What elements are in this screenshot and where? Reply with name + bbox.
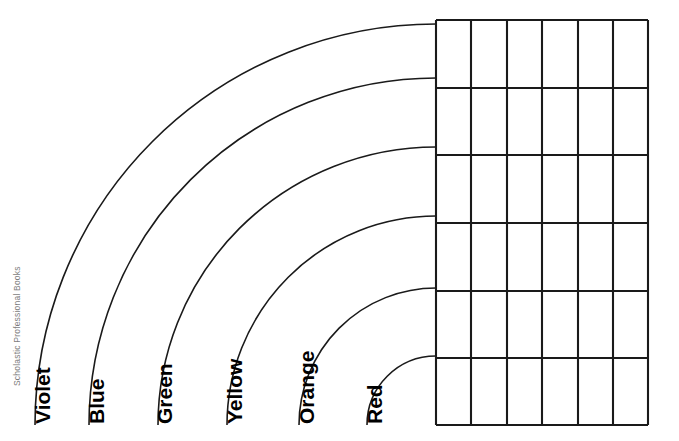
grid-cell[interactable] [615,293,647,357]
grid-cell[interactable] [615,90,647,154]
grid-cell[interactable] [615,360,647,424]
grid-cell[interactable] [580,360,612,424]
grid-cell[interactable] [509,157,541,222]
grid-cell[interactable] [438,22,470,87]
grid-cell[interactable] [580,293,612,357]
grid-cell[interactable] [544,157,577,222]
rainbow-arc-blue [89,78,436,425]
grid-cell[interactable] [544,293,577,357]
grid-cell[interactable] [438,293,470,357]
grid-cell[interactable] [509,90,541,154]
grid-cell[interactable] [473,22,506,87]
grid-cell[interactable] [615,225,647,290]
grid-cell[interactable] [438,90,470,154]
grid-cell[interactable] [544,360,577,424]
grid-cell[interactable] [615,157,647,222]
band-label-green: Green [153,363,176,424]
band-label-blue: Blue [85,378,108,424]
grid-cell[interactable] [544,22,577,87]
grid-cell[interactable] [544,90,577,154]
band-label-orange: Orange [295,350,318,424]
grid-cell[interactable] [580,157,612,222]
grid-cell[interactable] [580,22,612,87]
rainbow-arc-yellow [227,216,436,425]
grid-cell[interactable] [473,90,506,154]
grid-cell[interactable] [580,90,612,154]
grid-cell[interactable] [509,225,541,290]
grid-cell[interactable] [615,22,647,87]
grid-cell[interactable] [473,293,506,357]
band-label-red: Red [363,384,386,424]
grid-cell[interactable] [509,22,541,87]
grid-cell[interactable] [438,157,470,222]
rainbow-graph-figure: VioletBlueGreenYellowOrangeRed [0,0,679,441]
band-label-yellow: Yellow [223,358,246,424]
grid-cell[interactable] [544,225,577,290]
grid-cell[interactable] [473,360,506,424]
grid-cell[interactable] [509,293,541,357]
grid-cell[interactable] [438,360,470,424]
grid-cell[interactable] [438,225,470,290]
grid-group [436,20,648,425]
band-label-violet: Violet [31,367,54,424]
grid-cell[interactable] [473,157,506,222]
grid-cell[interactable] [580,225,612,290]
worksheet-page: VioletBlueGreenYellowOrangeRed Scholasti… [0,0,679,441]
band-label-group: VioletBlueGreenYellowOrangeRed [31,350,386,424]
grid-cell[interactable] [473,225,506,290]
grid-cell[interactable] [509,360,541,424]
publisher-credit: Scholastic Professional Books [12,266,22,386]
